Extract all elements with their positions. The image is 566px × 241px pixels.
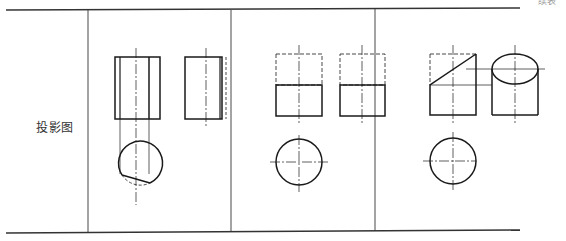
case-2-drawing: [270, 45, 385, 192]
table-rules: [6, 8, 520, 233]
case2-side-view: [340, 85, 385, 116]
case1-front-view: [115, 57, 160, 119]
bottom-rule: [6, 230, 520, 233]
projection-table: 续表 投影图: [0, 0, 566, 241]
case-1-drawing: [115, 48, 226, 205]
top-rule: [6, 8, 520, 10]
case1-top-view-arc: [119, 141, 163, 183]
case2-side-removed: [340, 54, 385, 85]
drawing-canvas: [0, 0, 566, 241]
case-3-drawing: [423, 45, 545, 192]
case1-side-view: [185, 57, 222, 119]
